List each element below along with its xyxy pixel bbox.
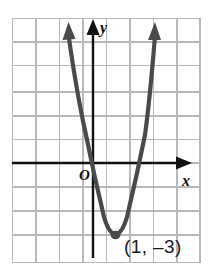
y-axis-label: y: [98, 19, 108, 37]
vertex-coordinate-label: (1, –3): [124, 236, 182, 257]
origin-label: O: [79, 167, 90, 183]
vertex-point-marker: [111, 231, 121, 239]
x-axis-label: x: [181, 172, 190, 189]
coordinate-plane: O y x (1, –3): [0, 0, 212, 268]
graph-figure: O y x (1, –3): [0, 0, 212, 268]
